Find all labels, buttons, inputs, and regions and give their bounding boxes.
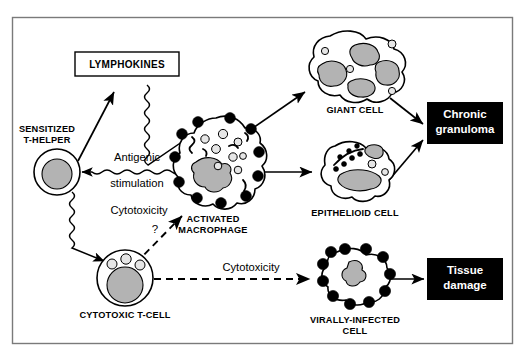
tissue-damage-box[interactable]: Tissue damage: [427, 258, 503, 300]
macrophage-vesicle: [240, 153, 247, 160]
virally-infected-virion: [363, 296, 374, 307]
virally-infected-virion: [344, 298, 355, 309]
cell-virally-infected-cell[interactable]: [317, 243, 395, 309]
virally-infected-virion: [377, 251, 388, 262]
antigenic-stimulation-label-line1: Antigenic: [114, 151, 160, 163]
cell-epithelioid-cell[interactable]: [321, 142, 394, 202]
lymphokines-box[interactable]: LYMPHOKINES: [75, 52, 179, 76]
macrophage-vesicle: [212, 145, 221, 154]
cytotoxic-tcell-granule: [135, 260, 145, 270]
virally-infected-virion: [379, 285, 390, 296]
epithelioid-cell-vesicle: [382, 169, 389, 176]
macrophage-receptor: [216, 198, 227, 209]
chronic-granuloma-label-line1: Chronic: [443, 108, 487, 120]
giant-cell-vesicle: [346, 65, 353, 72]
arrow-macrophage-to-giant-cell: [253, 92, 305, 128]
chronic-granuloma-label-line2: granuloma: [436, 123, 495, 135]
macrophage-receptor: [193, 117, 204, 128]
giant-cell-label: GIANT CELL: [326, 105, 383, 115]
cytotoxicity-question-mark: ?: [152, 223, 158, 235]
t-helper-nucleus: [42, 159, 72, 189]
macrophage-receptor: [174, 177, 185, 188]
macrophage-receptor: [225, 113, 236, 124]
giant-cell-vesicle: [388, 87, 395, 94]
virally-infected-virion: [360, 243, 371, 254]
macrophage-vesicle: [214, 162, 222, 170]
antigenic-stimulation-label-line2: stimulation: [110, 177, 163, 189]
cytotoxic-tcell-nucleus: [107, 267, 143, 303]
cytotoxic-tcell-granule: [121, 254, 131, 264]
virally-infected-virion: [339, 243, 350, 254]
macrophage-receptor: [254, 147, 265, 158]
virally-infected-virion: [384, 268, 395, 279]
epithelioid-bacterium-barb: [358, 152, 363, 157]
diagram-canvas: LYMPHOKINES SENSITIZED T-HELPER: [0, 0, 526, 361]
arrow-giant-cell-to-chronic-granuloma: [390, 98, 423, 124]
epithelioid-cell-label: EPITHELIOID CELL: [311, 208, 399, 218]
giant-cell-nucleus: [318, 61, 347, 86]
virally-infected-cell-label-line1: VIRALLY-INFECTED: [310, 315, 400, 325]
sensitized-t-helper-label-line2: T-HELPER: [23, 135, 70, 145]
wavy-arrow-thelper-to-cytotoxic-tcell: [70, 192, 105, 261]
giant-cell-nucleus: [375, 61, 399, 86]
cytotoxic-tcell-granule: [107, 259, 117, 269]
activated-macrophage-label-line1: ACTIVATED: [186, 214, 239, 224]
cell-giant-cell[interactable]: [309, 31, 405, 103]
epithelioid-cell-vesicle: [368, 160, 376, 168]
virally-infected-cell-label-line2: CELL: [343, 326, 368, 336]
giant-cell-vesicle: [321, 47, 328, 54]
epithelioid-bacterium-barb: [355, 144, 360, 149]
cytotoxicity-virally-infected-label: Cytotoxicity: [222, 261, 280, 273]
macrophage-vesicle: [218, 129, 227, 138]
macrophage-vesicle: [201, 135, 209, 143]
tissue-damage-label-line1: Tissue: [447, 264, 483, 276]
arrow-thelper-to-lymphokines: [78, 92, 114, 161]
chronic-granuloma-box[interactable]: Chronic granuloma: [427, 102, 503, 144]
macrophage-receptor: [246, 124, 257, 135]
epithelioid-bacterium-barb: [350, 156, 355, 161]
virally-infected-virion: [327, 290, 338, 301]
tissue-damage-label-line2: damage: [443, 279, 486, 291]
cytotoxicity-macrophage-label: Cytotoxicity: [110, 204, 168, 216]
macrophage-receptor: [192, 193, 203, 204]
macrophage-receptor: [253, 171, 264, 182]
epithelioid-bacterium-barb: [342, 162, 347, 167]
virally-infected-virion: [317, 258, 328, 269]
macrophage-receptor: [177, 129, 188, 140]
macrophage-vesicle: [234, 166, 242, 174]
virally-infected-virion: [317, 275, 328, 286]
epithelioid-cell-nucleus: [338, 170, 381, 191]
activated-macrophage-label-line2: MACROPHAGE: [178, 225, 247, 235]
sensitized-t-helper-label-line1: SENSITIZED: [19, 124, 75, 134]
cell-sensitized-t-helper[interactable]: [34, 149, 80, 195]
macrophage-vesicle: [229, 153, 237, 161]
cytotoxic-t-cell-label: CYTOTOXIC T-CELL: [79, 310, 170, 320]
epithelioid-bacterium-barb: [347, 149, 352, 154]
cell-cytotoxic-t-cell[interactable]: [97, 250, 153, 306]
epithelioid-bacterium-barb: [338, 155, 343, 160]
macrophage-receptor: [241, 191, 252, 202]
epithelioid-bacterium-barb: [334, 167, 339, 172]
giant-cell-nucleus: [348, 79, 375, 97]
virally-infected-virion: [325, 246, 336, 257]
giant-cell-vesicle: [388, 40, 396, 48]
macrophage-receptor: [170, 152, 181, 163]
cell-activated-macrophage[interactable]: [170, 113, 267, 210]
lymphokines-box-label: LYMPHOKINES: [89, 59, 165, 70]
